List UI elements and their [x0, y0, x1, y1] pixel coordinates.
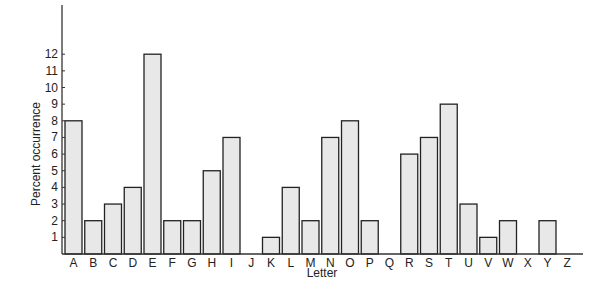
y-tick-label: 4	[51, 180, 58, 194]
bar-G	[184, 221, 201, 254]
x-tick-label: J	[248, 256, 254, 270]
bar-T	[440, 104, 457, 254]
x-tick-label: R	[405, 256, 414, 270]
bar-O	[342, 121, 359, 254]
bar-K	[263, 237, 280, 254]
bar-H	[203, 171, 220, 254]
bar-E	[144, 54, 161, 254]
x-tick-label: B	[89, 256, 97, 270]
bar-A	[65, 121, 82, 254]
y-tick-label: 2	[51, 214, 58, 228]
bar-V	[480, 237, 497, 254]
bar-W	[500, 221, 517, 254]
bars	[65, 54, 556, 254]
y-tick-label: 8	[51, 114, 58, 128]
x-tick-label: P	[366, 256, 374, 270]
x-tick-label: G	[187, 256, 196, 270]
bar-D	[124, 187, 141, 254]
x-tick-label: A	[69, 256, 77, 270]
bar-chart: 123456789101112 ABCDEFGHIJKLMNOPQRSTUVWX…	[0, 0, 615, 293]
x-tick-label: I	[230, 256, 233, 270]
x-tick-label: Z	[564, 256, 571, 270]
y-tick-label: 6	[51, 147, 58, 161]
bar-L	[282, 187, 299, 254]
y-tick-label: 12	[45, 47, 59, 61]
x-axis-label: Letter	[307, 266, 338, 280]
bar-R	[401, 154, 418, 254]
x-tick-label: E	[148, 256, 156, 270]
bar-S	[421, 137, 438, 254]
bar-U	[460, 204, 477, 254]
bar-Y	[539, 221, 556, 254]
y-tick-label: 1	[51, 230, 58, 244]
x-tick-label: Y	[543, 256, 551, 270]
x-tick-label: U	[464, 256, 473, 270]
y-tick-label: 7	[51, 130, 58, 144]
y-tick-label: 3	[51, 197, 58, 211]
y-axis-label: Percent occurrence	[29, 102, 43, 206]
x-tick-label: T	[445, 256, 453, 270]
bar-B	[85, 221, 102, 254]
x-tick-label: F	[169, 256, 176, 270]
x-tick-label: X	[524, 256, 532, 270]
bar-N	[322, 137, 339, 254]
y-tick-label: 11	[46, 64, 59, 78]
bar-F	[164, 221, 181, 254]
x-tick-label: W	[502, 256, 514, 270]
bar-M	[302, 221, 319, 254]
bar-P	[361, 221, 378, 254]
y-tick-label: 10	[45, 81, 59, 95]
x-tick-label: K	[267, 256, 275, 270]
y-tick-label: 9	[51, 97, 58, 111]
x-tick-label: V	[484, 256, 492, 270]
x-tick-label: C	[109, 256, 118, 270]
x-tick-label: S	[425, 256, 433, 270]
x-tick-label: H	[207, 256, 216, 270]
x-tick-label: L	[287, 256, 294, 270]
bar-I	[223, 137, 240, 254]
x-tick-label: D	[128, 256, 137, 270]
x-tick-label: O	[345, 256, 354, 270]
bar-C	[105, 204, 122, 254]
x-tick-label: Q	[385, 256, 394, 270]
y-tick-label: 5	[51, 164, 58, 178]
